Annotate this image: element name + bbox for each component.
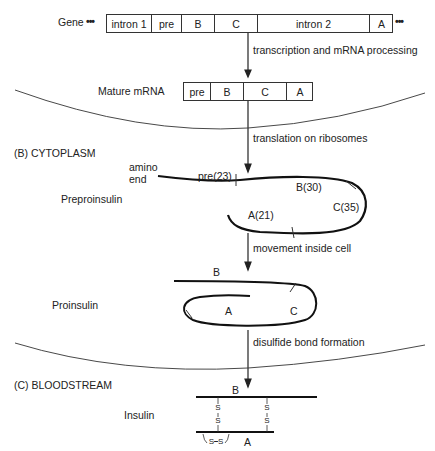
disulfide-s2: S bbox=[215, 417, 221, 425]
section-cytoplasm: (B) CYTOPLASM bbox=[14, 148, 96, 159]
gene-segment-intron1: intron 1 bbox=[107, 15, 151, 32]
step-translation: translation on ribosomes bbox=[253, 133, 367, 144]
disulfide-s4: S bbox=[264, 417, 270, 425]
mrna-segment-pre: pre bbox=[184, 83, 210, 100]
step-transcription: transcription and mRNA processing bbox=[253, 45, 418, 56]
gene-ellipsis-right: ••• bbox=[395, 16, 403, 27]
disulfide-s3: S bbox=[264, 404, 270, 412]
proinsulin-chain bbox=[174, 281, 316, 326]
insulin-label: Insulin bbox=[124, 410, 154, 421]
mrna-segment-b: B bbox=[210, 83, 243, 100]
section-bloodstream: (C) BLOODSTREAM bbox=[14, 380, 112, 391]
mrna-label: Mature mRNA bbox=[98, 86, 165, 97]
insulin-a-label: A bbox=[244, 437, 251, 448]
insulin-b-label: B bbox=[232, 385, 239, 396]
gene-segment-a: A bbox=[369, 15, 393, 32]
mrna-segment-a: A bbox=[286, 83, 313, 100]
gene-segment-b: B bbox=[181, 15, 214, 32]
intrachain-disulfide: S⎯S bbox=[204, 438, 228, 446]
a-segment-label: A(21) bbox=[248, 210, 274, 221]
amino-label: amino bbox=[129, 162, 158, 173]
proinsulin-a-label: A bbox=[225, 306, 232, 317]
end-label: end bbox=[129, 174, 147, 185]
step-disulfide: disulfide bond formation bbox=[253, 337, 365, 348]
disulfide-s1: S bbox=[215, 404, 221, 412]
proinsulin-c-label: C bbox=[290, 306, 298, 317]
mrna-box: pre B C A bbox=[183, 82, 313, 101]
c-segment-label: C(35) bbox=[333, 202, 359, 213]
gene-segment-pre: pre bbox=[151, 15, 181, 32]
proinsulin-b-label: B bbox=[213, 267, 220, 278]
gene-ellipsis-left: ••• bbox=[86, 16, 94, 27]
pre-segment-label: pre(23) bbox=[198, 171, 232, 182]
gene-label: Gene bbox=[58, 17, 84, 28]
gene-segment-c: C bbox=[214, 15, 257, 32]
proinsulin-label: Proinsulin bbox=[52, 300, 98, 311]
b-segment-label: B(30) bbox=[296, 182, 322, 193]
gene-segment-intron2: intron 2 bbox=[257, 15, 369, 32]
step-movement: movement inside cell bbox=[253, 243, 351, 254]
mrna-segment-c: C bbox=[243, 83, 286, 100]
preproinsulin-label: Preproinsulin bbox=[61, 194, 122, 205]
gene-box: intron 1 pre B C intron 2 A bbox=[106, 14, 393, 33]
